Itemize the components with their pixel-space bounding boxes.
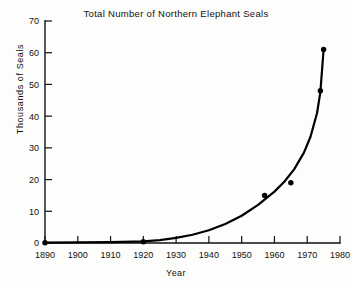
y-tick-label: 30: [29, 143, 39, 153]
x-tick-label: 1920: [133, 250, 153, 260]
x-tick-label: 1910: [101, 250, 121, 260]
x-axis: 1890190019101920193019401950196019701980: [35, 236, 350, 260]
data-point: [141, 239, 146, 244]
x-tick-label: 1900: [68, 250, 88, 260]
y-axis: 010203040506070: [29, 16, 52, 248]
trend-curve: [45, 50, 324, 243]
x-tick-label: 1930: [166, 250, 186, 260]
y-tick-label: 10: [29, 207, 39, 217]
data-point: [288, 180, 293, 185]
x-tick-label: 1980: [330, 250, 350, 260]
x-tick-label: 1950: [232, 250, 252, 260]
x-tick-label: 1940: [199, 250, 219, 260]
y-tick-label: 20: [29, 175, 39, 185]
data-point: [262, 193, 267, 198]
y-tick-label: 70: [29, 16, 39, 26]
y-tick-label: 40: [29, 112, 39, 122]
data-point: [42, 240, 47, 245]
plot-area: 010203040506070 189019001910192019301940…: [0, 0, 352, 287]
data-point: [318, 88, 323, 93]
x-tick-label: 1890: [35, 250, 55, 260]
x-tick-label: 1960: [264, 250, 284, 260]
chart-figure: Total Number of Northern Elephant Seals …: [0, 0, 352, 287]
y-tick-label: 0: [34, 238, 39, 248]
y-tick-label: 60: [29, 48, 39, 58]
data-series: [42, 47, 326, 246]
x-tick-label: 1970: [297, 250, 317, 260]
data-point: [321, 47, 326, 52]
y-tick-label: 50: [29, 80, 39, 90]
